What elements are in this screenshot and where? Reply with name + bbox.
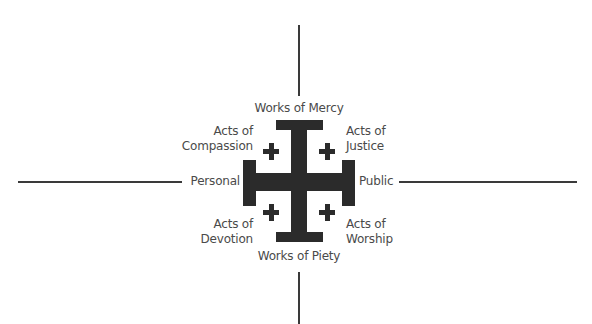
label-works-of-piety: Works of Piety	[249, 249, 349, 264]
diagram-canvas: Works of Mercy Works of Piety Personal P…	[0, 0, 592, 324]
label-personal: Personal	[170, 174, 240, 189]
label-works-of-mercy: Works of Mercy	[249, 101, 349, 116]
label-acts-of-worship: Acts of Worship	[346, 217, 426, 247]
label-acts-of-compassion: Acts of Compassion	[160, 124, 253, 154]
label-public: Public	[359, 174, 419, 189]
label-line: Acts of	[160, 217, 253, 232]
small-cross-bottom-left-icon	[263, 204, 279, 221]
label-line: Acts of	[346, 217, 426, 232]
label-line: Acts of	[346, 124, 426, 139]
label-line: Compassion	[160, 139, 253, 154]
label-line: Worship	[346, 232, 426, 247]
label-line: Justice	[346, 139, 426, 154]
small-cross-bottom-right-icon	[319, 204, 335, 221]
label-line: Acts of	[160, 124, 253, 139]
jerusalem-cross-icon	[0, 0, 592, 324]
small-cross-top-left-icon	[263, 143, 279, 160]
label-acts-of-justice: Acts of Justice	[346, 124, 426, 154]
small-cross-top-right-icon	[319, 143, 335, 160]
label-acts-of-devotion: Acts of Devotion	[160, 217, 253, 247]
label-line: Devotion	[160, 232, 253, 247]
